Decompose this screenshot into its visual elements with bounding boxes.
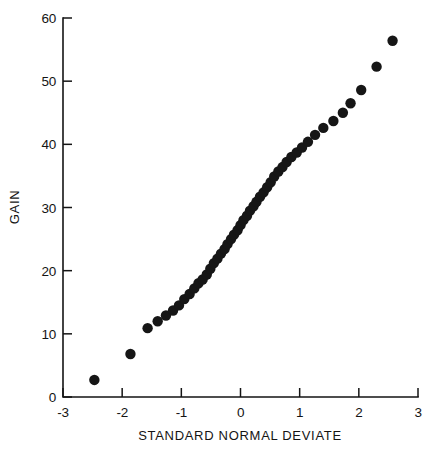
y-tick-label: 0: [49, 390, 56, 405]
data-point: [345, 98, 355, 108]
x-tick-label: 0: [237, 405, 244, 420]
data-points-layer: [89, 36, 398, 386]
data-point: [125, 349, 135, 359]
y-axis-ticks: 0102030405060: [42, 11, 72, 405]
x-tick-label: -1: [176, 405, 187, 420]
data-point: [356, 85, 366, 95]
y-tick-label: 10: [42, 327, 56, 342]
y-tick-label: 30: [42, 201, 56, 216]
data-point: [142, 323, 152, 333]
x-tick-label: -3: [57, 405, 68, 420]
x-axis-title: STANDARD NORMAL DEVIATE: [138, 428, 342, 443]
x-tick-label: 2: [355, 405, 362, 420]
x-axis-ticks: -3-2-10123: [57, 388, 421, 420]
data-point: [310, 130, 320, 140]
data-point: [338, 108, 348, 118]
y-axis-title: GAIN: [7, 190, 22, 225]
y-tick-label: 50: [42, 74, 56, 89]
y-tick-label: 60: [42, 11, 56, 26]
chart-svg: 0102030405060 -3-2-10123 STANDARD NORMAL…: [0, 0, 446, 449]
normal-probability-plot: 0102030405060 -3-2-10123 STANDARD NORMAL…: [0, 0, 446, 449]
x-tick-label: 1: [296, 405, 303, 420]
x-tick-label: -2: [116, 405, 127, 420]
axis-frame: [63, 18, 418, 397]
data-point: [328, 116, 338, 126]
data-point: [89, 375, 99, 385]
data-point: [387, 36, 397, 46]
data-point: [371, 61, 381, 71]
x-tick-label: 3: [414, 405, 421, 420]
y-tick-label: 20: [42, 264, 56, 279]
data-point: [318, 123, 328, 133]
y-tick-label: 40: [42, 137, 56, 152]
